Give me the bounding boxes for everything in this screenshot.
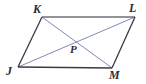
diagonal-KM xyxy=(42,17,112,68)
diagonal-JL xyxy=(18,17,135,67)
vertex-label-J: J xyxy=(6,65,12,77)
intersection-label-P: P xyxy=(70,43,77,55)
parallelogram-figure: K L J M P xyxy=(0,0,146,84)
side-LM xyxy=(112,17,135,68)
geometry-canvas xyxy=(0,0,146,84)
vertex-label-K: K xyxy=(33,3,41,15)
vertex-label-L: L xyxy=(129,2,136,14)
side-MJ xyxy=(18,67,112,68)
side-JK xyxy=(18,17,42,67)
vertex-label-M: M xyxy=(109,69,120,81)
